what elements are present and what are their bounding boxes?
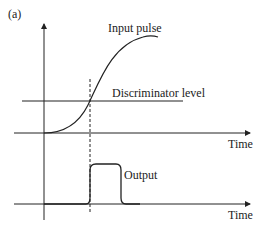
input-pulse-curve [44,36,158,133]
time-label-upper: Time [228,137,253,151]
panel-label: (a) [8,7,21,21]
time-label-lower: Time [228,208,253,222]
timing-diagram: (a) Input pulse Discriminator level Time… [0,0,265,232]
discriminator-level-label: Discriminator level [112,86,206,100]
input-pulse-label: Input pulse [108,21,162,35]
output-label: Output [124,168,158,182]
